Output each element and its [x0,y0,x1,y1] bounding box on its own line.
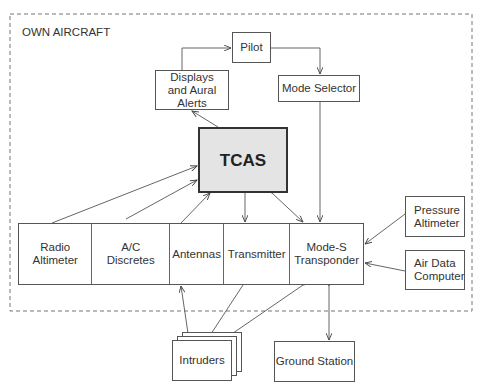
antennas-node: Antennas [170,224,224,284]
mode-s-transponder-node: Mode-S Transponder [290,224,363,284]
mode-selector-node: Mode Selector [278,75,360,102]
intruders-node: Intruders [172,340,232,381]
ground-station-node: Ground Station [274,341,355,382]
air-data-computer-node: Air Data Computer [405,250,465,290]
displays-node: Displays and Aural Alerts [155,70,229,110]
radio-altimeter-node: Radio Altimeter [19,224,92,284]
tcas-node: TCAS [198,127,288,193]
transmitter-node: Transmitter [224,224,290,284]
avionics-row: Radio Altimeter A/C Discretes Antennas T… [18,223,364,285]
pilot-node: Pilot [232,32,271,63]
own-aircraft-label: OWN AIRCRAFT [22,26,110,38]
ac-discretes-node: A/C Discretes [92,224,169,284]
pressure-altimeter-node: Pressure Altimeter [405,196,465,237]
